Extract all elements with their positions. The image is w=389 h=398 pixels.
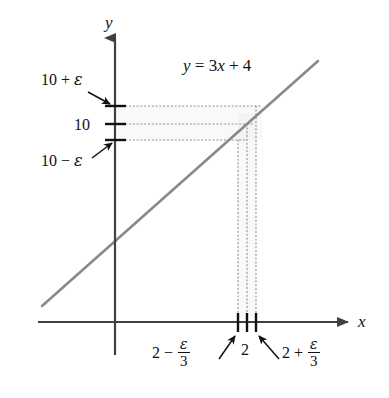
y-tick-label-center: 10 <box>74 117 90 133</box>
x-right-operator: + <box>294 344 303 361</box>
x-left-operator: − <box>164 344 173 361</box>
x-tick-label-right: 2 + ε 3 <box>282 338 321 371</box>
epsilon-band-horizontal <box>118 106 262 140</box>
x-left-numerator: ε <box>178 337 190 351</box>
y-lower-epsilon: ε <box>74 151 83 170</box>
x-tick-label-left: 2 − ε 3 <box>152 338 191 371</box>
y-upper-epsilon: ε <box>74 70 83 89</box>
y-upper-operator: + <box>61 71 70 88</box>
y-lower-operator: − <box>61 152 70 169</box>
equation-intercept: 4 <box>243 56 252 75</box>
y-upper-value: 10 <box>41 71 57 88</box>
x-right-fraction: ε 3 <box>308 337 320 370</box>
y-tick-label-lower: 10 − ε <box>41 153 83 169</box>
x-right-whole: 2 <box>282 344 290 361</box>
x-tick-label-center: 2 <box>241 342 249 358</box>
x-left-fraction: ε 3 <box>178 337 190 370</box>
y-lower-value: 10 <box>41 152 57 169</box>
x-right-denominator: 3 <box>308 354 320 369</box>
equation-equals: = <box>195 56 205 75</box>
y-tick-label-upper: 10 + ε <box>41 72 83 88</box>
equation-plus: + <box>229 56 239 75</box>
x-left-denominator: 3 <box>178 354 190 369</box>
equation-x: x <box>217 56 225 75</box>
line-equation-label: y = 3x + 4 <box>183 57 251 74</box>
equation-y: y <box>183 56 191 75</box>
x-axis-label: x <box>358 313 366 330</box>
y-axis-label: y <box>105 14 113 31</box>
x-right-numerator: ε <box>308 337 320 351</box>
x-left-whole: 2 <box>152 344 160 361</box>
equation-slope: 3 <box>209 56 218 75</box>
